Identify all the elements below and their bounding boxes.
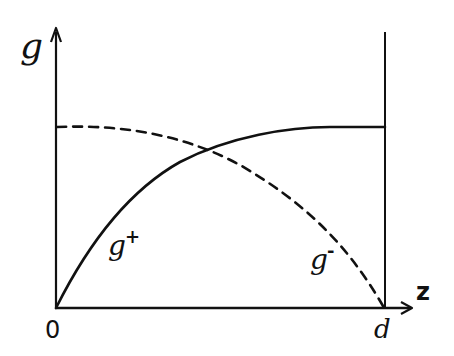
curve-label-g-plus: g+ [108, 232, 141, 260]
boundary-label-d: d [374, 316, 391, 342]
diagram-canvas [0, 0, 454, 356]
curve-label-g-minus-sup: - [327, 240, 334, 261]
curve-label-g-minus-base: g [310, 243, 328, 276]
curve-label-g-plus-sup: + [125, 226, 140, 247]
curve-label-g-minus: g- [310, 246, 335, 274]
y-axis-label: g [20, 28, 43, 64]
curve-label-g-plus-base: g [108, 229, 126, 262]
curve-g-minus [57, 127, 383, 306]
x-axis-label: z [416, 280, 430, 304]
origin-label: 0 [45, 318, 60, 342]
